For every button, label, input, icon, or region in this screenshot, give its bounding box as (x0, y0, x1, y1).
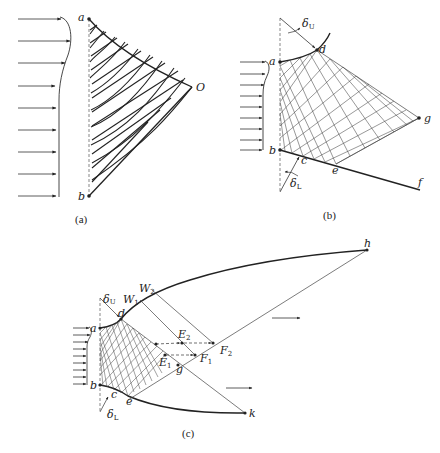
point-a-b (87, 194, 91, 198)
label-b-a: a (269, 55, 276, 68)
label-b-f: f (417, 176, 424, 189)
label-c-h: h (364, 237, 371, 250)
point-c-E2 (180, 341, 183, 344)
label-a-a: a (78, 11, 85, 24)
supersonic-jet-characteristics-diagram: a b O (a) (0, 0, 440, 453)
label-c-a: a (90, 322, 97, 335)
label-c-deltaU: δU (103, 293, 116, 306)
velocity-profile-a (59, 17, 71, 197)
label-a-O: O (196, 81, 205, 94)
label-b-b: b (269, 144, 276, 157)
label-a-b: b (78, 190, 85, 203)
label-c-k: k (249, 407, 256, 420)
label-b-deltaU: δU (302, 17, 315, 31)
point-a-a (87, 17, 91, 21)
label-c-E2: E2 (177, 328, 191, 342)
point-b-b (278, 148, 282, 152)
inflow-arrows-c (73, 328, 90, 384)
panel-a: a b O (a) (18, 11, 205, 226)
point-c-F1 (193, 353, 196, 356)
lower-jet-boundary-c (100, 385, 245, 413)
label-c-d: d (118, 307, 125, 320)
caption-c: (c) (182, 427, 195, 440)
angle-lower-b: δL (280, 157, 302, 192)
label-c-g: g (176, 363, 183, 376)
inflow-arrows-a (18, 19, 70, 196)
point-c-F2 (211, 341, 214, 344)
label-c-W2: W2 (139, 282, 155, 296)
label-c-F2: F2 (219, 344, 232, 358)
boundary-ao (89, 19, 192, 87)
point-c-mesh-tip (154, 342, 157, 345)
label-b-e: e (332, 164, 339, 177)
outflow-arrows-c (226, 318, 300, 388)
point-b-g (417, 116, 421, 120)
point-c-b (98, 383, 101, 386)
label-c-W1: W1 (123, 293, 139, 307)
wave-eh (128, 250, 367, 400)
label-c-b: b (90, 379, 97, 392)
velocity-profile-c (87, 327, 91, 385)
panel-b: δU δL a b c d e f g (b) (240, 17, 431, 222)
wave-dg (317, 50, 419, 118)
angle-upper-b: δU (280, 17, 315, 48)
characteristic-mesh-c (100, 319, 165, 396)
label-c-E1: E1 (158, 356, 172, 370)
point-c-a (98, 326, 101, 329)
point-c-k (243, 411, 246, 414)
angle-upper-c: δU (100, 293, 119, 317)
inflow-arrows-b (240, 62, 265, 150)
label-b-d: d (319, 43, 326, 56)
wave-W1 (140, 300, 195, 355)
caption-b: (b) (323, 209, 336, 222)
point-b-a (278, 60, 282, 64)
label-c-c: c (111, 388, 117, 401)
characteristic-mesh-b (280, 50, 419, 164)
label-c-deltaL: δL (107, 408, 119, 422)
panel-c: δU δL a b c d e g k h E1 E2 F1 F2 W1 W2 … (73, 237, 371, 440)
label-b-c: c (301, 154, 307, 167)
label-c-F1: F1 (199, 352, 212, 366)
label-b-deltaL: δL (290, 177, 302, 191)
label-b-g: g (424, 112, 431, 125)
label-c-e: e (126, 395, 133, 408)
caption-a: (a) (75, 213, 88, 226)
